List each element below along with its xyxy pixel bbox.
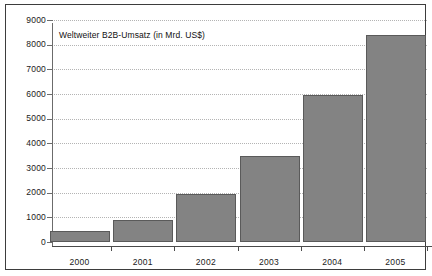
y-axis-tick-label: 9000 — [8, 16, 46, 25]
bar-2002 — [176, 194, 236, 242]
y-axis-line — [52, 23, 53, 247]
bar-2003 — [240, 156, 300, 242]
y-axis-tick-label: 1000 — [8, 213, 46, 222]
x-axis-tick-label: 2002 — [174, 257, 237, 267]
bar-2000 — [50, 231, 110, 242]
y-axis-tick-label: 3000 — [8, 164, 46, 173]
y-axis-tick-label: 2000 — [8, 188, 46, 197]
y-tick-mark — [47, 20, 53, 21]
x-tick-mark — [364, 246, 365, 251]
x-axis-tick-label: 2003 — [238, 257, 301, 267]
y-axis-tick-label: 0 — [8, 238, 46, 247]
chart-frame: 0100020003000400050006000700080009000 20… — [5, 4, 426, 270]
x-tick-mark — [427, 246, 428, 251]
y-axis-tick-label: 5000 — [8, 114, 46, 123]
x-axis-line — [52, 246, 432, 247]
y-axis-tick-label: 7000 — [8, 65, 46, 74]
chart-title: Weltweiter B2B-Umsatz (in Mrd. US$) — [59, 30, 205, 40]
x-axis-tick-label: 2005 — [364, 257, 427, 267]
chart-figure: 0100020003000400050006000700080009000 20… — [0, 0, 432, 276]
x-tick-mark — [238, 246, 239, 251]
gridline — [48, 20, 427, 21]
bar-2004 — [303, 95, 363, 242]
x-tick-mark — [174, 246, 175, 251]
y-axis-labels: 0100020003000400050006000700080009000 — [6, 5, 46, 276]
y-axis-tick-label: 6000 — [8, 90, 46, 99]
x-tick-mark — [301, 246, 302, 251]
x-tick-mark — [111, 246, 112, 251]
y-axis-tick-label: 8000 — [8, 40, 46, 49]
x-axis-tick-label: 2000 — [48, 257, 111, 267]
bar-2005 — [366, 35, 426, 242]
y-axis-tick-label: 4000 — [8, 139, 46, 148]
bar-2001 — [113, 220, 173, 242]
x-axis-tick-label: 2004 — [301, 257, 364, 267]
x-axis-tick-label: 2001 — [111, 257, 174, 267]
